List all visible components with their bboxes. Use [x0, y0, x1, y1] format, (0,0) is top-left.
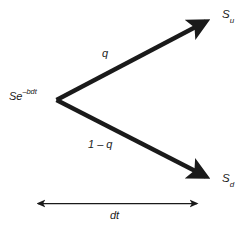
up-node-label-base: S [222, 8, 230, 20]
down-branch-probability-label: 1 – q [88, 139, 112, 150]
binomial-tree-diagram: Se–bdt Su Sd q 1 – q dt [0, 0, 249, 240]
down-node-label: Sd [222, 173, 234, 187]
up-branch-arrow [57, 22, 207, 101]
timestep-label: dt [110, 210, 119, 221]
root-node-label: Se–bdt [9, 89, 37, 102]
diagram-vector-layer [0, 0, 249, 240]
down-node-label-subscript: d [230, 180, 234, 189]
root-node-label-exponent: –bdt [22, 87, 36, 96]
up-branch-probability-label: q [102, 48, 108, 59]
root-node-label-base: Se [9, 90, 22, 102]
down-branch-arrow [57, 100, 207, 177]
down-node-label-base: S [222, 172, 230, 184]
up-node-label: Su [222, 9, 234, 23]
up-node-label-subscript: u [230, 16, 234, 25]
